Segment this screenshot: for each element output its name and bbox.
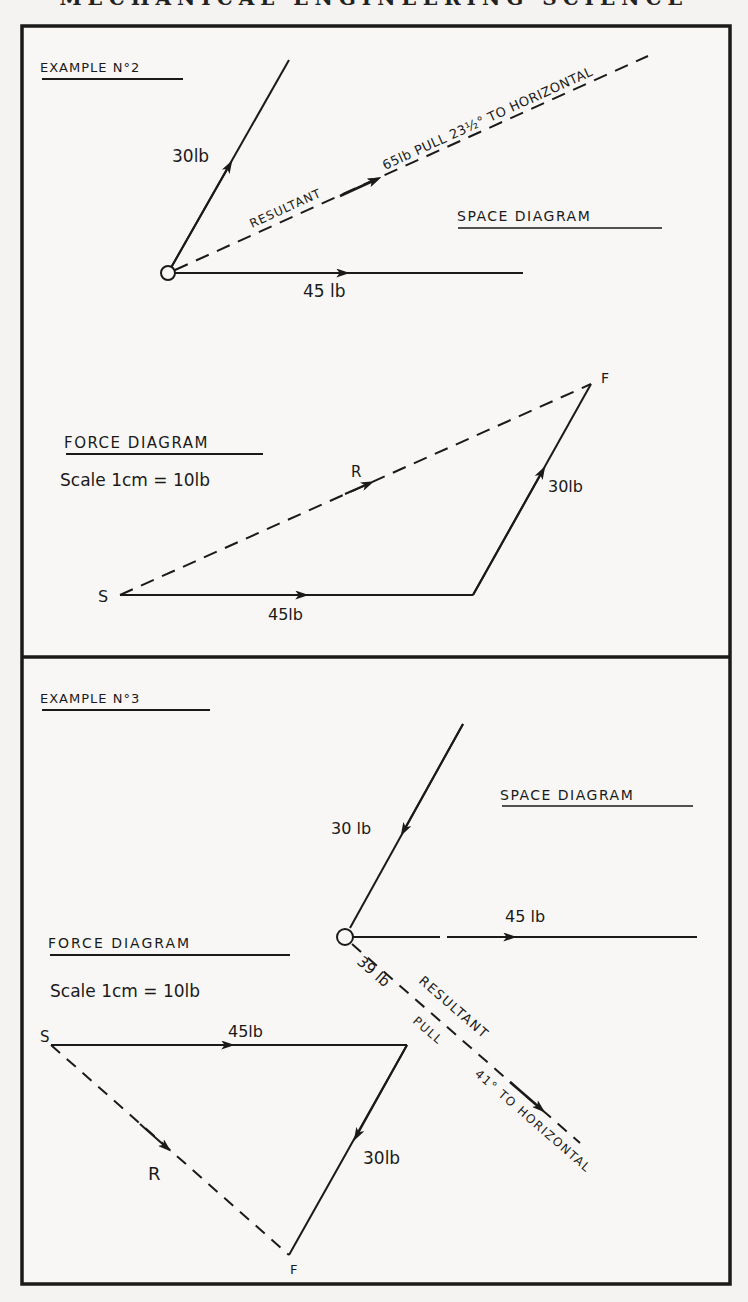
side-b-label: 30lb [548,477,583,496]
force-a-label: 30 lb [331,819,371,838]
point-f: F [290,1262,297,1277]
diagram-sheet: EXAMPLE N°2 30lb 45 lb RESULTANT 65lb PU… [0,0,748,1302]
side-b-label: 30lb [363,1148,400,1168]
point-s: S [40,1028,50,1046]
space-diagram-label: SPACE DIAGRAM [457,208,591,224]
example-2-title: EXAMPLE N°2 [40,60,140,75]
force-b-label: 45 lb [505,907,545,926]
scale-label: Scale 1cm = 10lb [50,981,200,1001]
force-diagram-label: FORCE DIAGRAM [48,935,191,951]
point-f: F [601,370,609,386]
scale-label: Scale 1cm = 10lb [60,470,210,490]
point-of-application [161,266,175,280]
force-a-label: 30lb [172,146,209,166]
frame [22,26,730,1284]
side-a-label: 45lb [228,1022,263,1041]
resultant-r-label: R [148,1163,161,1184]
point-of-application [337,929,353,945]
space-diagram-label: SPACE DIAGRAM [500,787,634,803]
force-b-label: 45 lb [303,281,346,301]
point-s: S [98,587,108,606]
example-3-title: EXAMPLE N°3 [40,691,140,706]
force-diagram-label: FORCE DIAGRAM [64,434,209,452]
resultant-r-label: R [351,463,361,481]
side-a-label: 45lb [268,605,303,624]
